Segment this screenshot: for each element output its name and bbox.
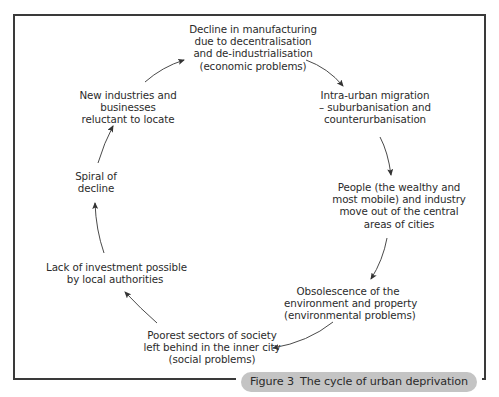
node-line: move out of the central: [332, 205, 466, 217]
node-line: counterurbanisation: [318, 113, 432, 125]
node-line: environment and property: [284, 297, 412, 309]
node-line: most mobile) and industry: [332, 193, 466, 205]
node-line: Spiral of: [66, 170, 126, 182]
node-lack-of-investment: Lack of investment possible by local aut…: [46, 261, 184, 285]
figure-title: The cycle of urban deprivation: [300, 375, 468, 388]
figure-number: Figure 3: [250, 375, 294, 388]
node-line: reluctant to locate: [78, 113, 178, 125]
node-line: by local authorities: [46, 273, 184, 285]
node-obsolescence: Obsolescence of the environment and prop…: [284, 285, 412, 322]
node-line: New industries and: [78, 89, 178, 101]
node-line: (economic problems): [183, 60, 323, 72]
node-line: Poorest sectors of society: [138, 329, 286, 341]
node-line: Intra-urban migration: [318, 89, 432, 101]
node-new-industries: New industries and businesses reluctant …: [78, 89, 178, 126]
node-line: Decline in manufacturing: [183, 23, 323, 35]
node-line: and de-industrialisation: [183, 47, 323, 59]
node-intra-urban-migration: Intra-urban migration – suburbanisation …: [318, 89, 432, 126]
node-line: due to decentralisation: [183, 35, 323, 47]
node-line: (social problems): [138, 353, 286, 365]
node-line: Lack of investment possible: [46, 261, 184, 273]
node-people-move-out: People (the wealthy and most mobile) and…: [332, 181, 466, 230]
node-line: left behind in the inner city: [138, 341, 286, 353]
node-poorest-sectors: Poorest sectors of society left behind i…: [138, 329, 286, 366]
node-line: areas of cities: [332, 218, 466, 230]
node-line: People (the wealthy and: [332, 181, 466, 193]
node-line: – suburbanisation and: [318, 101, 432, 113]
node-spiral-of-decline: Spiral of decline: [66, 170, 126, 194]
node-line: decline: [66, 182, 126, 194]
figure-caption: Figure 3The cycle of urban deprivation: [241, 372, 477, 392]
node-line: businesses: [78, 101, 178, 113]
node-decline-manufacturing: Decline in manufacturing due to decentra…: [183, 23, 323, 72]
node-line: (environmental problems): [284, 309, 412, 321]
node-line: Obsolescence of the: [284, 285, 412, 297]
